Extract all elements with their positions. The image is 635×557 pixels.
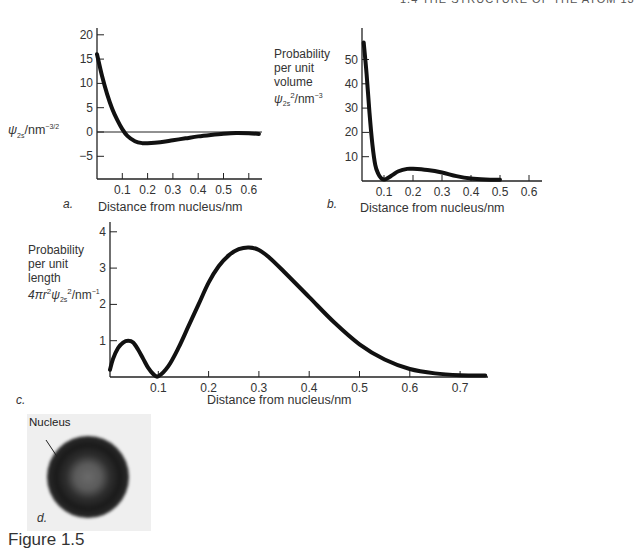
y-tick-label: 30 [345,101,359,115]
y-tick-label: 40 [345,77,359,91]
x-tick-label: 0.5 [215,183,232,197]
y-tick-label: 0 [86,125,93,139]
x-tick-label: 0.3 [434,185,451,199]
y-tick-label: 50 [345,53,359,67]
panel-c-letter: c. [16,393,25,407]
x-tick-label: 0.5 [351,381,368,395]
y-tick-label: 2 [99,297,106,311]
x-tick-label: 0.6 [401,381,418,395]
y-tick-label: 10 [80,76,94,90]
panel-d-letter: d. [37,511,47,525]
x-axis-label: Distance from nucleus/nm [207,393,352,407]
x-tick-label: 0.3 [165,183,182,197]
y-tick-label: 1 [99,334,106,348]
x-tick-label: 0.2 [405,185,422,199]
y-tick-label: 20 [345,125,359,139]
y-tick-label: −5 [79,149,93,163]
x-tick-label: 0.6 [521,185,538,199]
x-tick-label: 0.4 [190,183,207,197]
x-tick-label: 0.7 [452,381,469,395]
x-tick-label: 0.5 [492,185,509,199]
x-tick-label: 0.2 [139,183,156,197]
x-tick-label: 0.1 [150,381,167,395]
electron-cloud-ring [47,436,129,518]
x-tick-label: 0.6 [240,183,257,197]
y-tick-label: 4 [99,225,106,239]
chart-b: 0.10.20.30.40.50.61020304050Distance fro… [345,28,542,215]
panel-c-ylabel: Probability per unit length 4πr2ψ2s2/nm−… [28,243,100,307]
y-tick-label: 10 [345,150,359,164]
chart-c: 0.10.20.30.40.50.60.71234Distance from n… [99,222,488,407]
x-axis-label: Distance from nucleus/nm [98,200,243,214]
figure-caption: Figure 1.5 [8,530,85,550]
x-tick-label: 0.1 [376,185,393,199]
panel-b-ylabel: Probability per unit volume ψ2s2/nm−3 [274,47,330,111]
chart-a: 0.10.20.30.40.50.6−505101520Distance fro… [79,28,262,214]
electron-cloud-image: Nucleus d. [27,414,151,531]
panel-a-ylabel: ψ2s/nm−3/2 [8,120,59,143]
data-curve [364,42,500,179]
data-curve [110,247,485,376]
x-tick-label: 0.1 [114,183,131,197]
y-tick-label: 15 [80,52,94,66]
data-curve [97,54,259,143]
panel-b-letter: b. [327,197,337,211]
x-axis-label: Distance from nucleus/nm [360,201,505,215]
y-tick-label: 20 [80,28,94,42]
y-tick-label: 3 [99,261,106,275]
y-tick-label: 5 [86,101,93,115]
nucleus-annotation: Nucleus [29,416,71,428]
panel-a-letter: a. [63,197,73,211]
x-tick-label: 0.4 [463,185,480,199]
